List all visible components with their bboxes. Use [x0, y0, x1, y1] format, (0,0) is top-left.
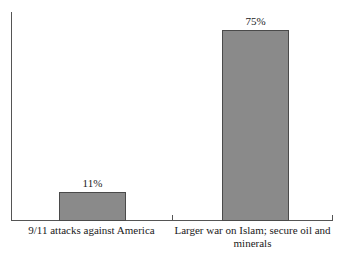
category-label-2: Larger war on Islam; secure oil and mine…: [172, 224, 333, 249]
bar-category-1: [59, 192, 126, 221]
category-label-2-line-2: minerals: [172, 237, 333, 250]
bar-category-2: [222, 30, 289, 221]
x-axis-tick-middle: [172, 215, 173, 220]
category-label-1: 9/11 attacks against America: [11, 224, 172, 237]
bar-value-label-1: 11%: [59, 177, 126, 190]
y-axis-line: [11, 12, 12, 221]
category-label-2-line-1: Larger war on Islam; secure oil and: [172, 224, 333, 237]
bar-chart: 11% 75% 9/11 attacks against America Lar…: [0, 0, 344, 257]
bar-value-label-2: 75%: [222, 15, 289, 28]
category-label-1-line-1: 9/11 attacks against America: [11, 224, 172, 237]
x-axis-tick-end: [332, 215, 333, 220]
